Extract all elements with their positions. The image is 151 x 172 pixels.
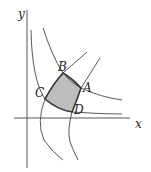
diagram-canvas: y x A B C D: [0, 0, 151, 172]
x-axis-label: x: [135, 117, 142, 131]
point-label-a: A: [82, 81, 92, 95]
point-label-d: D: [73, 103, 84, 117]
curve-right-vertical: [69, 112, 78, 160]
point-label-c: C: [35, 86, 44, 100]
y-axis-label: y: [17, 7, 25, 21]
point-label-b: B: [57, 60, 67, 74]
